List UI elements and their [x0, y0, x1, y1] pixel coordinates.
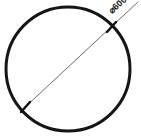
diameter-dimension-line: [22, 2, 138, 110]
technical-drawing-canvas: ⌀600: [0, 0, 141, 138]
diameter-dimension-label: ⌀600: [107, 0, 129, 15]
tick-lower-left: [21, 102, 30, 112]
drawing-svg: ⌀600: [0, 0, 141, 138]
